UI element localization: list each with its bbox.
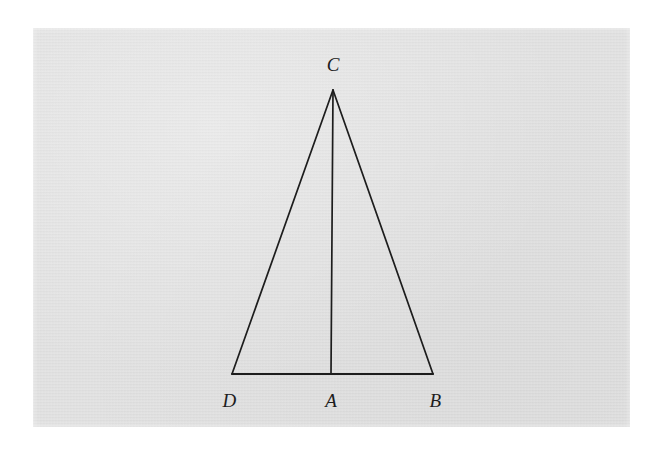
vertex-label-c: C — [327, 55, 340, 74]
side-cb — [333, 90, 433, 374]
vertex-label-a: A — [325, 391, 337, 410]
segments-group — [232, 90, 433, 374]
vertex-label-d: D — [222, 391, 236, 410]
vertex-label-b: B — [430, 391, 442, 410]
side-cd — [232, 90, 333, 374]
figure-root: C D A B — [0, 0, 660, 450]
cevian-ca — [331, 90, 333, 374]
